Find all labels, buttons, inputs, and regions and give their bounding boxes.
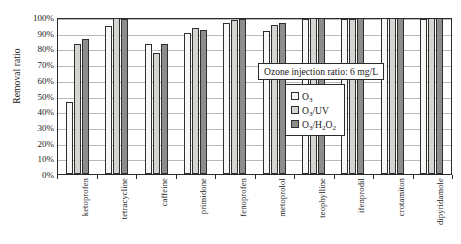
bar: [381, 18, 388, 174]
legend-swatch-icon: [291, 92, 299, 100]
x-category-label: dipyridamole: [435, 178, 445, 225]
bar: [184, 33, 191, 174]
x-category-label: ketoprofen: [80, 178, 90, 216]
bar: [153, 53, 160, 174]
bar: [82, 39, 89, 174]
legend-label: O3/UV: [302, 105, 329, 116]
legend-label: O3/H2O2: [302, 119, 336, 130]
bar: [161, 44, 168, 174]
bar: [389, 18, 396, 174]
bar-group: [184, 19, 208, 174]
x-category-label: ifenprodil: [356, 178, 366, 213]
bar: [349, 19, 356, 174]
x-category-label: tetracycline: [119, 178, 129, 219]
bar-group: [66, 19, 90, 174]
x-category-label: crotamiton: [396, 178, 406, 216]
annotation-ozone-injection-ratio: Ozone injection ratio: 6 mg/L: [258, 63, 384, 80]
bar: [263, 31, 270, 174]
plot-area: [57, 18, 452, 175]
bar: [113, 18, 120, 174]
bar: [271, 25, 278, 174]
bar: [357, 18, 364, 174]
legend-swatch-icon: [291, 120, 299, 128]
y-tick-label: 90%: [38, 29, 55, 38]
bar: [145, 44, 152, 174]
y-tick-label: 60%: [38, 76, 55, 85]
bar: [223, 23, 230, 174]
y-axis-tick-labels: 0%10%20%30%40%50%60%70%80%90%100%: [20, 12, 56, 182]
legend-item: O3/H2O2: [291, 117, 336, 131]
bar-group: [144, 19, 168, 174]
bar: [436, 18, 443, 174]
y-tick-label: 10%: [38, 155, 55, 164]
x-category-label: metoprolol: [277, 178, 287, 217]
bar: [397, 18, 404, 174]
legend: O3O3/UVO3/H2O2: [285, 84, 345, 136]
legend-item: O3: [291, 89, 336, 103]
x-category-label: primidone: [198, 178, 208, 214]
bar-group: [419, 19, 443, 174]
y-tick-label: 80%: [38, 45, 55, 54]
y-tick-label: 50%: [38, 92, 55, 101]
bar: [420, 19, 427, 174]
bar: [121, 19, 128, 174]
bar-group: [262, 19, 286, 174]
bar: [428, 18, 435, 174]
bar-group: [380, 19, 404, 174]
bar-groups: [58, 19, 451, 174]
y-tick-label: 100%: [33, 14, 54, 23]
bar: [66, 102, 73, 174]
bar: [200, 30, 207, 174]
x-category-label: caffeine: [159, 178, 169, 206]
bar: [74, 44, 81, 174]
bar: [239, 19, 246, 174]
y-tick-label: 70%: [38, 61, 55, 70]
y-tick-label: 0%: [42, 171, 54, 180]
chart-figure: Removal ratio 0%10%20%30%40%50%60%70%80%…: [0, 0, 461, 244]
bar-group: [223, 19, 247, 174]
legend-swatch-icon: [291, 106, 299, 114]
legend-label: O3: [302, 91, 312, 102]
bar: [231, 20, 238, 174]
x-category-label: teophylline: [317, 178, 327, 218]
y-tick-label: 30%: [38, 123, 55, 132]
y-tick-label: 20%: [38, 139, 55, 148]
x-tick-mark: [452, 175, 453, 179]
bar: [105, 26, 112, 174]
y-tick-label: 40%: [38, 108, 55, 117]
bar: [192, 28, 199, 174]
x-axis-category-labels: ketoprofentetracyclinecaffeineprimidonef…: [57, 178, 452, 242]
bar-group: [105, 19, 129, 174]
legend-item: O3/UV: [291, 103, 336, 117]
x-category-label: fenoprofen: [238, 178, 248, 217]
